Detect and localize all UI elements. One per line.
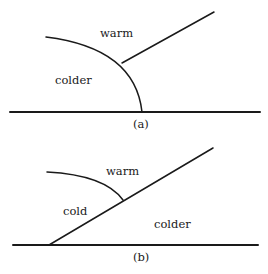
label-warm-a: warm (100, 26, 133, 40)
caption-a: (a) (133, 117, 149, 131)
label-cold-b: cold (63, 204, 88, 218)
panel-b: warm cold colder (b) (13, 148, 258, 264)
panel-a: warm colder (a) (10, 12, 260, 131)
warm-front-line-a (122, 12, 214, 63)
front-diagram: warm colder (a) warm cold colder (b) (0, 0, 268, 274)
label-colder-b: colder (154, 217, 191, 231)
label-colder-a: colder (55, 73, 92, 87)
label-warm-b: warm (106, 164, 139, 178)
caption-b: (b) (133, 250, 149, 264)
